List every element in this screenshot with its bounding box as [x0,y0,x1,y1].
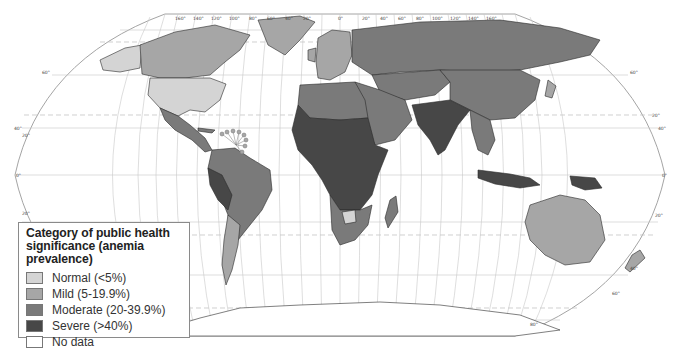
region-madagascar [385,196,398,228]
region-western-europe [316,30,352,80]
svg-text:60°: 60° [398,16,406,21]
legend-item-severe: Severe (>40%) [26,318,183,334]
region-alaska [100,45,142,72]
svg-text:60°: 60° [630,70,638,75]
svg-text:20°: 20° [362,16,370,21]
legend-label: Normal (<5%) [52,271,126,285]
region-north-africa [298,82,368,120]
region-greenland [258,16,315,55]
legend-label: Moderate (20-39.9%) [52,303,165,317]
svg-text:160°: 160° [175,16,186,21]
map-legend: Category of public health significance (… [18,222,190,338]
svg-text:20°: 20° [652,113,660,118]
svg-text:20°: 20° [303,16,311,21]
svg-text:40°: 40° [658,126,666,131]
svg-text:140°: 140° [468,16,479,21]
region-canada [140,25,250,78]
legend-item-moderate: Moderate (20-39.9%) [26,302,183,318]
region-uk [308,48,316,62]
svg-text:60°: 60° [267,16,275,21]
region-png [570,176,602,190]
svg-text:80°: 80° [249,16,257,21]
svg-text:20°: 20° [22,133,30,138]
svg-text:100°: 100° [229,16,240,21]
svg-text:40°: 40° [14,126,22,131]
swatch-normal [26,272,43,284]
svg-text:140°: 140° [193,16,204,21]
swatch-moderate [26,304,43,316]
svg-text:40°: 40° [285,16,293,21]
svg-text:0°: 0° [16,173,21,178]
region-argentina [222,215,240,285]
swatch-severe [26,320,43,332]
swatch-no-data [26,336,43,348]
svg-text:120°: 120° [450,16,461,21]
svg-text:80°: 80° [530,322,538,327]
svg-text:0°: 0° [338,16,343,21]
swatch-mild [26,288,43,300]
region-caribbean [198,128,215,133]
legend-label: Mild (5-19.9%) [52,287,130,301]
svg-text:60°: 60° [42,70,50,75]
svg-text:160°: 160° [486,16,497,21]
legend-item-no-data: No data [26,334,183,350]
region-japan [545,80,556,98]
svg-text:20°: 20° [22,211,30,216]
legend-title: Category of public health significance (… [26,227,183,266]
legend-label: Severe (>40%) [52,319,132,333]
svg-text:100°: 100° [432,16,443,21]
legend-item-mild: Mild (5-19.9%) [26,286,183,302]
svg-text:40°: 40° [630,266,638,271]
legend-item-normal: Normal (<5%) [26,270,183,286]
svg-text:60°: 60° [612,291,620,296]
svg-text:40°: 40° [380,16,388,21]
legend-title-line2: significance (anemia prevalence) [26,240,183,266]
svg-text:120°: 120° [211,16,222,21]
legend-label: No data [52,335,94,349]
svg-text:80°: 80° [416,16,424,21]
region-russia [352,20,600,75]
region-australia [525,195,605,265]
region-indonesia [478,170,540,188]
svg-text:0°: 0° [662,173,667,178]
region-antarctica [140,302,560,336]
svg-text:20°: 20° [655,213,663,218]
